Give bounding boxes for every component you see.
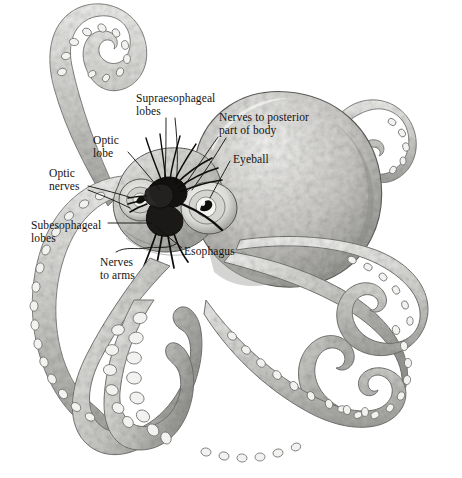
label-esophagus: Esophagus [184, 245, 235, 258]
label-optic-nerves: Optic nerves [49, 167, 80, 192]
label-subesophageal-lobes: Subesophageal lobes [31, 219, 101, 244]
label-optic-lobe: Optic lobe [93, 134, 119, 159]
label-nerves-to-arms: Nerves to arms [100, 256, 135, 281]
label-nerves-to-posterior-part-of-body: Nerves to posterior part of body [219, 111, 309, 136]
octopus-anatomy-figure: Supraesophageal lobes Nerves to posterio… [0, 0, 462, 478]
label-eyeball: Eyeball [233, 153, 269, 166]
label-supraesophageal-lobes: Supraesophageal lobes [136, 92, 215, 117]
optic-lobe-structure [145, 184, 173, 208]
